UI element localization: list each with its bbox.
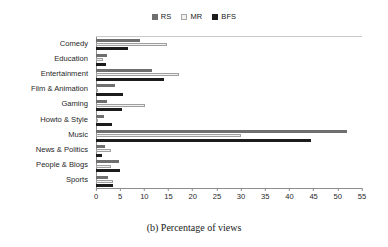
bar-bfs: [96, 154, 102, 157]
x-tick-mark: [192, 188, 193, 191]
bar-mr: [96, 73, 179, 76]
y-axis-label-education: Education: [0, 55, 92, 63]
x-tick-label: 50: [334, 193, 342, 201]
plot-area: [96, 36, 362, 188]
x-tick-mark: [289, 188, 290, 191]
x-axis-tick-20: 20: [188, 188, 196, 201]
bar-group: [96, 67, 362, 82]
legend-label-bfs: BFS: [221, 13, 236, 21]
bar-group: [96, 113, 362, 128]
legend-entry-mr: MR: [181, 13, 202, 21]
bar-group: [96, 37, 362, 52]
x-tick-label: 40: [285, 193, 293, 201]
legend-swatch-bfs-icon: [212, 14, 218, 20]
bar-rs: [96, 160, 119, 163]
bar-mr: [96, 104, 145, 107]
bar-bfs: [96, 108, 122, 111]
bar-rs: [96, 100, 107, 103]
bar-mr: [96, 89, 98, 92]
bar-rs: [96, 54, 107, 57]
bar-mr: [96, 119, 98, 122]
bar-group: [96, 174, 362, 189]
x-tick-mark: [313, 188, 314, 191]
bar-rs: [96, 69, 152, 72]
x-axis-tick-0: 0: [94, 188, 98, 201]
legend-swatch-mr-icon: [181, 14, 187, 20]
x-axis-tick-45: 45: [309, 188, 317, 201]
bar-bfs: [96, 93, 123, 96]
legend-swatch-rs-icon: [152, 14, 158, 20]
x-tick-mark: [337, 188, 338, 191]
bar-bfs: [96, 169, 120, 172]
figure-percentage-of-views: RS MR BFS ComedyEducationEntertainmentFi…: [0, 0, 388, 247]
x-axis-tick-10: 10: [140, 188, 148, 201]
legend-label-rs: RS: [161, 13, 172, 21]
bar-group: [96, 52, 362, 67]
bar-rs: [96, 176, 108, 179]
bar-bfs: [96, 184, 113, 187]
legend-entry-bfs: BFS: [212, 13, 236, 21]
y-axis-label-entertainment: Entertainment: [0, 70, 92, 78]
x-tick-label: 5: [118, 193, 122, 201]
y-axis-category-labels: ComedyEducationEntertainmentFilm & Anima…: [0, 36, 92, 188]
bar-mr: [96, 58, 103, 61]
x-tick-mark: [168, 188, 169, 191]
bar-bfs: [96, 78, 164, 81]
bar-mr: [96, 134, 241, 137]
x-axis-tick-40: 40: [285, 188, 293, 201]
x-axis-tick-35: 35: [261, 188, 269, 201]
x-axis-tick-50: 50: [334, 188, 342, 201]
bar-group: [96, 98, 362, 113]
y-axis-label-music: Music: [0, 131, 92, 139]
x-axis-tick-15: 15: [164, 188, 172, 201]
y-axis-label-news-politics: News & Politics: [0, 146, 92, 154]
bar-bfs: [96, 139, 311, 142]
bar-bfs: [96, 47, 128, 50]
x-tick-label: 45: [309, 193, 317, 201]
x-tick-label: 10: [140, 193, 148, 201]
bar-group: [96, 128, 362, 143]
x-tick-label: 25: [213, 193, 221, 201]
bar-rs: [96, 145, 105, 148]
bar-rs: [96, 130, 347, 133]
x-tick-mark: [95, 188, 96, 191]
chart-legend: RS MR BFS: [0, 13, 388, 21]
bar-bfs: [96, 123, 112, 126]
bar-mr: [96, 180, 113, 183]
y-axis-label-comedy: Comedy: [0, 40, 92, 48]
x-tick-label: 20: [188, 193, 196, 201]
bar-group: [96, 159, 362, 174]
x-tick-label: 35: [261, 193, 269, 201]
bar-bfs: [96, 63, 106, 66]
y-axis-label-film-animation: Film & Animation: [0, 85, 92, 93]
x-axis-tick-55: 55: [358, 188, 366, 201]
bar-rs: [96, 39, 140, 42]
x-tick-mark: [361, 188, 362, 191]
x-tick-mark: [241, 188, 242, 191]
x-axis-tick-5: 5: [118, 188, 122, 201]
legend-entry-rs: RS: [152, 13, 172, 21]
y-axis-label-gaming: Gaming: [0, 100, 92, 108]
x-tick-label: 55: [358, 193, 366, 201]
bar-mr: [96, 165, 111, 168]
x-tick-label: 0: [94, 193, 98, 201]
bar-group: [96, 143, 362, 158]
x-tick-mark: [265, 188, 266, 191]
bar-rs: [96, 84, 115, 87]
bar-group: [96, 83, 362, 98]
x-tick-label: 15: [164, 193, 172, 201]
x-tick-mark: [216, 188, 217, 191]
bar-rs: [96, 115, 104, 118]
x-tick-mark: [144, 188, 145, 191]
x-axis-tick-25: 25: [213, 188, 221, 201]
x-tick-mark: [120, 188, 121, 191]
bar-mr: [96, 43, 167, 46]
y-axis-label-howto-style: Howto & Style: [0, 116, 92, 124]
y-axis-label-sports: Sports: [0, 176, 92, 184]
bar-mr: [96, 149, 111, 152]
figure-caption: (b) Percentage of views: [0, 222, 388, 233]
x-axis-ticks: 0510152025303540455055: [96, 188, 362, 206]
x-axis-tick-30: 30: [237, 188, 245, 201]
x-tick-label: 30: [237, 193, 245, 201]
y-axis-label-people-blogs: People & Blogs: [0, 161, 92, 169]
